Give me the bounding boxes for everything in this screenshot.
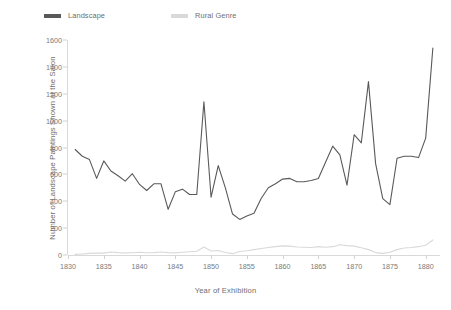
y-tick-mark [63, 120, 67, 121]
x-tick-mark [390, 255, 391, 259]
y-tick-mark [63, 147, 67, 148]
y-tick-mark [63, 93, 67, 94]
x-tick-label: 1850 [203, 262, 219, 271]
series-paths [68, 40, 440, 255]
y-tick-mark [63, 40, 67, 41]
x-axis-line [68, 255, 440, 256]
x-tick-label: 1835 [96, 262, 112, 271]
x-tick-mark [68, 255, 69, 259]
x-tick-label: 1830 [60, 262, 76, 271]
x-axis-title: Year of Exhibition [0, 286, 451, 295]
y-tick-label: 600 [50, 170, 62, 179]
x-tick-mark [247, 255, 248, 259]
x-tick-label: 1865 [310, 262, 326, 271]
chart-legend: Landscape Rural Genre [44, 11, 302, 20]
series-line-landscape [75, 48, 433, 219]
series-line-rural-genre [75, 240, 433, 254]
x-tick-mark [211, 255, 212, 259]
x-tick-label: 1860 [275, 262, 291, 271]
x-tick-label: 1875 [382, 262, 398, 271]
y-tick-mark [63, 174, 67, 175]
legend-swatch-rural-genre [171, 14, 188, 18]
y-tick-mark [63, 228, 67, 229]
x-tick-mark [354, 255, 355, 259]
legend-label-landscape: Landscape [68, 11, 105, 20]
y-tick-mark [63, 66, 67, 67]
y-tick-label: 1200 [46, 89, 62, 98]
legend-label-rural-genre: Rural Genre [195, 11, 236, 20]
x-tick-label: 1845 [167, 262, 183, 271]
x-tick-mark [104, 255, 105, 259]
y-tick-label: 1600 [46, 36, 62, 45]
y-tick-label: 200 [50, 224, 62, 233]
x-tick-label: 1840 [132, 262, 148, 271]
y-tick-mark [63, 201, 67, 202]
x-tick-mark [283, 255, 284, 259]
x-tick-label: 1870 [346, 262, 362, 271]
y-axis-title-wrap: Number of Landscape Paintings Shown at t… [14, 36, 30, 260]
legend-swatch-landscape [44, 14, 61, 18]
x-tick-mark [175, 255, 176, 259]
legend-item-landscape[interactable]: Landscape [44, 11, 105, 20]
plot-area: 0200400600800100012001400160018301835184… [68, 40, 440, 255]
y-tick-label: 0 [58, 251, 62, 260]
x-tick-label: 1855 [239, 262, 255, 271]
x-tick-mark [318, 255, 319, 259]
legend-item-rural-genre[interactable]: Rural Genre [171, 11, 236, 20]
y-tick-label: 1000 [46, 116, 62, 125]
line-chart: Landscape Rural Genre Number of Landscap… [0, 0, 451, 310]
x-tick-mark [140, 255, 141, 259]
x-tick-mark [426, 255, 427, 259]
x-tick-label: 1880 [418, 262, 434, 271]
y-tick-label: 1400 [46, 62, 62, 71]
y-tick-label: 400 [50, 197, 62, 206]
y-tick-mark [63, 255, 67, 256]
y-tick-label: 800 [50, 143, 62, 152]
